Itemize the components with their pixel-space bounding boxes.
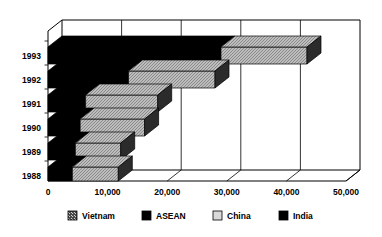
y-tick-label: 1989	[22, 147, 41, 157]
y-tick-label: 1992	[22, 75, 41, 85]
legend: Vietnam ASEAN China India	[68, 211, 313, 221]
legend-swatch-asean	[142, 211, 151, 220]
legend-label-india: India	[293, 211, 313, 221]
legend-item-china: China	[213, 211, 251, 221]
legend-item-india: India	[279, 211, 313, 221]
x-tick-label: 0	[46, 187, 51, 197]
x-axis-labels: 0 10,000 20,000 30,000 40,000 50,000	[46, 187, 360, 197]
legend-swatch-india	[279, 211, 288, 220]
legend-swatch-vietnam	[68, 211, 77, 220]
legend-item-vietnam: Vietnam	[68, 211, 115, 221]
y-axis-labels: 1993 1992 1991 1990 1989 1988	[22, 51, 41, 181]
y-tick-label: 1988	[22, 171, 41, 181]
legend-item-asean: ASEAN	[142, 211, 186, 221]
x-tick-label: 50,000	[333, 187, 359, 197]
y-tick-label: 1991	[22, 99, 41, 109]
y-tick-label: 1990	[22, 123, 41, 133]
legend-label-china: China	[227, 211, 251, 221]
legend-label-asean: ASEAN	[156, 211, 186, 221]
x-tick-label: 40,000	[273, 187, 299, 197]
chart-container: 1993 1992 1991 1990 1989 1988 0 10,000 2…	[0, 0, 382, 237]
y-tick-label: 1993	[22, 51, 41, 61]
bar-group-1988	[48, 156, 132, 181]
legend-label-vietnam: Vietnam	[82, 211, 115, 221]
bar-chart: 1993 1992 1991 1990 1989 1988 0 10,000 2…	[0, 0, 382, 237]
legend-swatch-china	[213, 211, 222, 220]
x-tick-label: 30,000	[214, 187, 240, 197]
x-tick-label: 10,000	[95, 187, 121, 197]
x-tick-label: 20,000	[154, 187, 180, 197]
